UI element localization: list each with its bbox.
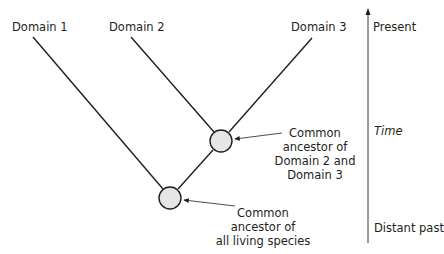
time-axis-arrow-icon (366, 8, 371, 15)
leaf-label-domain-1: Domain 1 (12, 20, 68, 34)
node-label-line: ancestor of (208, 220, 318, 234)
time-label-present: Present (373, 20, 416, 34)
node-common-ancestor-all (159, 187, 181, 209)
node-common-ancestor-domain-2-3 (210, 130, 232, 152)
node-label-domain-2-3: Common ancestor of Domain 2 and Domain 3 (268, 126, 362, 182)
node-label-line: Common (268, 126, 362, 140)
time-label-distant-past: Distant past (374, 221, 444, 235)
node-label-line: all living species (208, 234, 318, 248)
node-label-line: Domain 2 and (268, 154, 362, 168)
branch-domain-2 (131, 37, 214, 132)
time-label-time: Time (374, 124, 403, 138)
leaf-label-domain-2: Domain 2 (109, 20, 165, 34)
node-label-line: Common (208, 206, 318, 220)
node-label-line: Domain 3 (268, 168, 362, 182)
node-label-line: ancestor of (268, 140, 362, 154)
leaf-label-domain-3: Domain 3 (291, 20, 347, 34)
node-label-all-living: Common ancestor of all living species (208, 206, 318, 248)
branch-domain-1 (33, 37, 163, 189)
branch-domain-3 (229, 38, 312, 132)
branch-internal (178, 150, 213, 189)
